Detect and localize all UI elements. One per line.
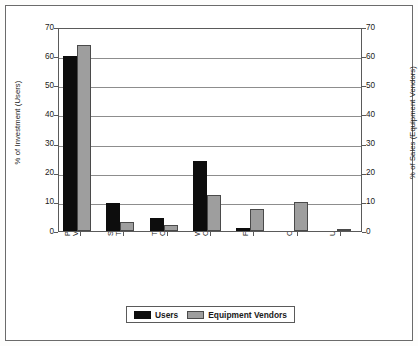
y-axis-left-tick-mark xyxy=(54,232,58,233)
bar-users xyxy=(106,203,120,231)
y-axis-right-tick-label: 70 xyxy=(366,24,406,32)
y-axis-left-tick-label: 0 xyxy=(14,228,54,236)
bar-users xyxy=(63,56,77,231)
y-axis-left-tick-label: 60 xyxy=(14,53,54,61)
gridline xyxy=(59,58,361,59)
y-axis-right-tick-label: 50 xyxy=(366,82,406,90)
y-axis-right-tick-mark xyxy=(362,174,366,175)
y-axis-right-title: % of Sales (Equipment Vendors) xyxy=(408,23,417,223)
bar-vendors xyxy=(164,225,178,231)
bar-vendors xyxy=(120,222,134,231)
y-axis-right-tick-label: 60 xyxy=(366,53,406,61)
bar-users xyxy=(193,161,207,231)
bar-vendors xyxy=(294,202,308,231)
bar-users xyxy=(236,228,250,231)
x-axis-tick-mark xyxy=(340,232,341,236)
chart-legend: UsersEquipment Vendors xyxy=(126,306,295,323)
x-axis-tick-mark xyxy=(297,232,298,236)
gridline xyxy=(59,146,361,147)
legend-swatch-vendors xyxy=(187,311,204,319)
gridline xyxy=(59,116,361,117)
y-axis-left-tick-label: 70 xyxy=(14,24,54,32)
y-axis-right-tick-label: 10 xyxy=(366,198,406,206)
legend-label: Equipment Vendors xyxy=(208,310,287,320)
y-axis-right-tick-mark xyxy=(362,86,366,87)
bar-vendors xyxy=(77,45,91,232)
y-axis-right-tick-mark xyxy=(362,28,366,29)
gridline xyxy=(59,87,361,88)
y-axis-left-tick-label: 20 xyxy=(14,169,54,177)
bar-vendors xyxy=(250,209,264,231)
y-axis-right-tick-label: 30 xyxy=(366,140,406,148)
y-axis-left-tick-label: 40 xyxy=(14,111,54,119)
legend-item: Equipment Vendors xyxy=(187,310,287,320)
y-axis-right-tick-label: 0 xyxy=(366,228,406,236)
y-axis-right-tick-mark xyxy=(362,145,366,146)
y-axis-right-tick-mark xyxy=(362,57,366,58)
y-axis-right-tick-label: 20 xyxy=(366,169,406,177)
y-axis-left-tick-label: 30 xyxy=(14,140,54,148)
y-axis-right-tick-label: 40 xyxy=(366,111,406,119)
bar-vendors xyxy=(337,229,351,231)
chart-figure: % of Investment (Users) % of Sales (Equi… xyxy=(0,0,418,346)
bar-vendors xyxy=(207,195,221,231)
y-axis-right-tick-mark xyxy=(362,232,366,233)
x-axis-tick-mark xyxy=(253,232,254,236)
legend-label: Users xyxy=(155,310,178,320)
gridline xyxy=(59,175,361,176)
y-axis-left-title: % of Investment (Users) xyxy=(13,43,22,203)
plot-area xyxy=(58,28,362,232)
y-axis-left-tick-label: 50 xyxy=(14,82,54,90)
y-axis-right-tick-mark xyxy=(362,115,366,116)
y-axis-right-tick-mark xyxy=(362,203,366,204)
bar-users xyxy=(150,218,164,231)
legend-swatch-users xyxy=(134,311,151,319)
legend-item: Users xyxy=(134,310,178,320)
y-axis-left-tick-label: 10 xyxy=(14,198,54,206)
